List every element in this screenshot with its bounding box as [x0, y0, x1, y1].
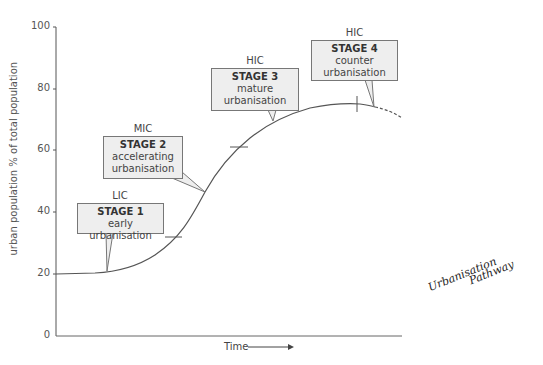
stage4-level: HIC [311, 27, 398, 38]
stage1-level: LIC [77, 190, 163, 201]
stage1-callout: STAGE 1 early urbanisation [77, 203, 164, 234]
y-tick-100: 100 [30, 20, 50, 31]
stage4-desc-1: counter [312, 55, 397, 67]
stage3-level: HIC [211, 55, 299, 66]
y-tick-20: 20 [30, 267, 50, 278]
stage2-level: MIC [103, 123, 183, 134]
stage2-title: STAGE 2 [104, 139, 182, 151]
y-tick-60: 60 [30, 143, 50, 154]
stage3-desc-1: mature [212, 83, 298, 95]
stage4-title: STAGE 4 [312, 43, 397, 55]
stage4-desc-2: urbanisation [312, 67, 397, 79]
stage1-desc: early urbanisation [78, 218, 163, 242]
y-axis-label: urban population % of total population [8, 106, 19, 256]
stage2-callout: STAGE 2 accelerating urbanisation [103, 136, 183, 179]
stage3-callout: STAGE 3 mature urbanisation [211, 68, 299, 111]
x-axis-label: Time [224, 341, 248, 352]
stage-boundary-ticks [165, 96, 357, 237]
stage1-title: STAGE 1 [78, 206, 163, 218]
stage3-desc-2: urbanisation [212, 95, 298, 107]
y-tick-0: 0 [30, 329, 50, 340]
stage2-desc-1: accelerating [104, 151, 182, 163]
stage2-desc-2: urbanisation [104, 163, 182, 175]
y-tick-40: 40 [30, 205, 50, 216]
time-arrow-head [288, 344, 294, 350]
y-tick-80: 80 [30, 82, 50, 93]
stage4-callout: STAGE 4 counter urbanisation [311, 40, 398, 81]
urbanisation-curve-dashed [375, 107, 402, 118]
stage3-title: STAGE 3 [212, 71, 298, 83]
